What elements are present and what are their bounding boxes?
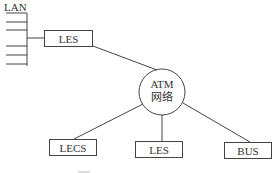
lecs-node-label: LECS (60, 142, 87, 154)
bus-node-label: BUS (237, 145, 258, 157)
les-node-bottom: LES (135, 141, 183, 158)
atm-label-line1: ATM (139, 78, 185, 91)
atm-label-line2: 网络 (139, 91, 185, 104)
atm-to-lecs-link (74, 104, 143, 139)
les-node-top-label: LES (59, 33, 79, 45)
atm-network-label: ATM 网络 (139, 78, 185, 104)
atm-to-bus-link (183, 103, 250, 142)
les-to-atm-link (93, 46, 157, 70)
les-node-top: LES (44, 30, 93, 47)
les-node-bottom-label: LES (149, 144, 169, 156)
lecs-node: LECS (49, 139, 97, 156)
bus-node: BUS (224, 142, 272, 159)
lan-label: LAN (4, 1, 27, 13)
